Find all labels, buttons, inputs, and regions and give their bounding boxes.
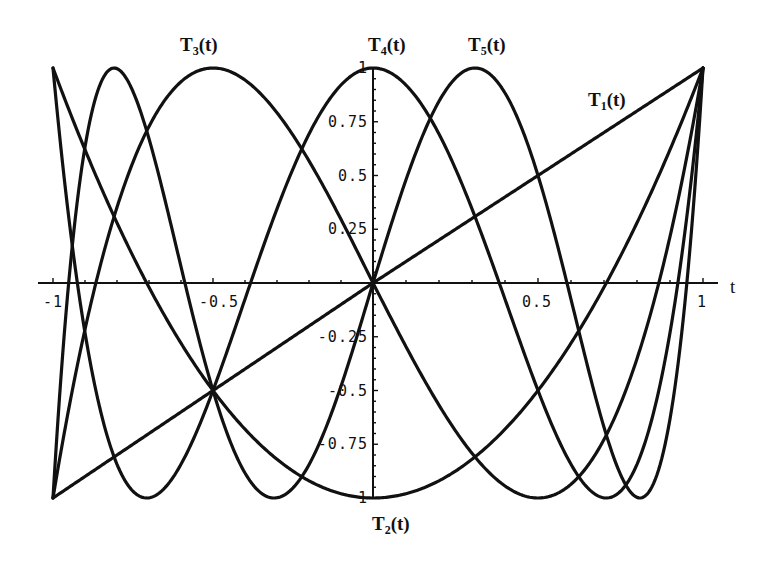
y-tick-label: 0.75 bbox=[328, 113, 368, 131]
label-t2t: T2(t) bbox=[372, 513, 410, 537]
y-tick-label: -0.5 bbox=[328, 382, 368, 400]
y-tick-label: -0.75 bbox=[318, 435, 368, 453]
y-tick-label: 1 bbox=[358, 59, 368, 77]
chebyshev-chart: -1-0.50.51 10.750.50.25-0.25-0.5-0.751 T… bbox=[0, 0, 778, 564]
x-tick-label: 0.5 bbox=[522, 293, 552, 311]
x-axis-title: t bbox=[730, 276, 736, 297]
x-tick-label: -1 bbox=[43, 293, 63, 311]
label-t1t: T1(t) bbox=[588, 89, 626, 113]
curve-labels: T1(t)T2(t)T3(t)T4(t)T5(t) bbox=[180, 34, 626, 537]
y-tick-label: 0.5 bbox=[338, 167, 368, 185]
y-tick-label: 0.25 bbox=[328, 220, 368, 238]
y-tick-label: 1 bbox=[358, 489, 368, 507]
y-tick-label: -0.25 bbox=[318, 328, 368, 346]
x-tick-label: -0.5 bbox=[199, 293, 239, 311]
label-t3t: T3(t) bbox=[180, 34, 218, 58]
label-t4t: T4(t) bbox=[368, 34, 406, 58]
label-t5t: T5(t) bbox=[468, 34, 506, 58]
x-tick-label: 1 bbox=[697, 293, 707, 311]
